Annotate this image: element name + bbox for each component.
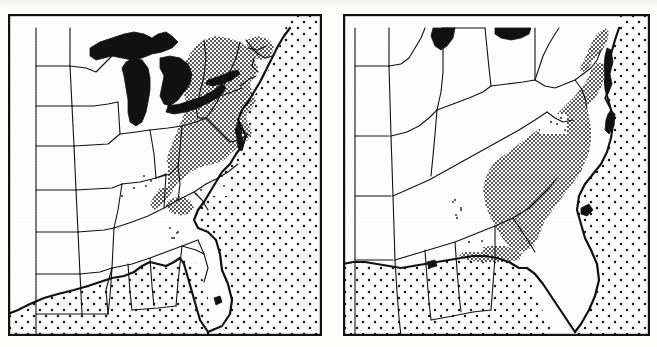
right-distribution-map xyxy=(343,14,650,336)
right-map-svg xyxy=(343,14,650,336)
left-distribution-map xyxy=(8,14,322,336)
figure-root xyxy=(0,0,657,347)
left-map-svg xyxy=(8,14,322,336)
